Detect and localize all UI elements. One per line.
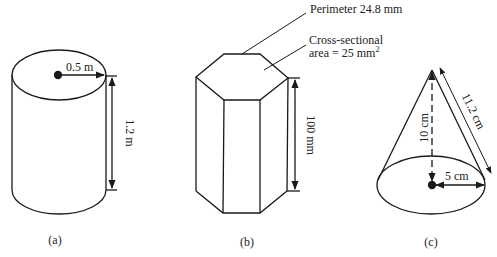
perimeter-leader-line — [242, 13, 306, 54]
prism-edge-right — [287, 78, 288, 191]
cylinder-bottom-arc — [12, 190, 106, 214]
figure-c-cone — [377, 68, 491, 214]
height-label-a: 1.2 m — [123, 119, 137, 147]
height-label-b: 100 mm — [304, 115, 318, 155]
caption-b: (b) — [240, 235, 254, 249]
prism-bottom-edges — [196, 191, 287, 213]
area-label-line1: Cross-sectional — [309, 33, 384, 47]
caption-a: (a) — [48, 233, 61, 247]
cone-center-dot — [429, 182, 436, 189]
perimeter-label: Perimeter 24.8 mm — [310, 2, 403, 16]
figure-b-hex-prism — [196, 13, 306, 213]
solids-diagram: 0.5 m 1.2 m (a) Perimeter 24.8 mm Cross-… — [0, 0, 497, 257]
caption-c: (c) — [424, 235, 437, 249]
area-leader-line — [264, 45, 306, 70]
height-label-c: 10 cm — [417, 113, 431, 143]
hexagon-top-face — [196, 54, 288, 100]
area-label-line2: area = 25 mm2 — [309, 45, 379, 60]
radius-label-c: 5 cm — [445, 169, 469, 183]
figure-a-cylinder — [12, 50, 117, 214]
slant-label-c: 11.2 cm — [459, 91, 489, 132]
radius-label-a: 0.5 m — [66, 60, 94, 74]
prism-edge-front-left — [223, 100, 224, 213]
